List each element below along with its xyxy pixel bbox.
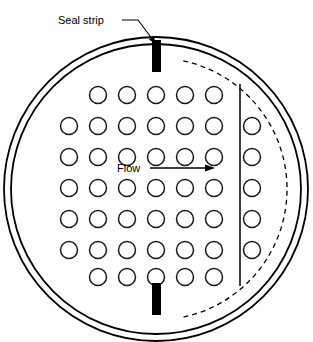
tube	[244, 118, 261, 135]
tube	[148, 118, 165, 135]
tube	[177, 269, 194, 286]
tube	[119, 87, 136, 104]
tube	[61, 149, 78, 166]
top-seal-strip	[152, 40, 161, 72]
tube	[148, 211, 165, 228]
tube	[119, 118, 136, 135]
tube	[177, 242, 194, 259]
tube	[90, 242, 107, 259]
tube	[148, 149, 165, 166]
tube	[206, 242, 223, 259]
tube	[206, 149, 223, 166]
tube	[119, 211, 136, 228]
tube	[119, 180, 136, 197]
tube	[244, 180, 261, 197]
tube	[177, 211, 194, 228]
tube	[244, 149, 261, 166]
tube	[177, 149, 194, 166]
tube	[61, 211, 78, 228]
tube	[90, 180, 107, 197]
tube	[61, 180, 78, 197]
tube	[90, 211, 107, 228]
tube	[90, 87, 107, 104]
tube	[244, 211, 261, 228]
tube	[119, 242, 136, 259]
tube	[61, 118, 78, 135]
tube	[206, 211, 223, 228]
heat-exchanger-diagram: Seal strip Flow	[0, 0, 313, 342]
diagram-canvas: Seal strip Flow	[0, 0, 313, 342]
flow-label: Flow	[117, 162, 140, 174]
outer-tube-limit-arc	[183, 61, 287, 317]
tube	[119, 269, 136, 286]
tube	[90, 269, 107, 286]
tube	[244, 242, 261, 259]
tube	[206, 87, 223, 104]
tube	[148, 269, 165, 286]
tube	[206, 180, 223, 197]
tube	[148, 180, 165, 197]
tube	[90, 149, 107, 166]
tube	[206, 269, 223, 286]
seal-strip-label: Seal strip	[58, 14, 104, 26]
tube	[61, 242, 78, 259]
tube	[90, 118, 107, 135]
tube	[148, 242, 165, 259]
tube	[177, 87, 194, 104]
tube	[177, 180, 194, 197]
tube	[206, 118, 223, 135]
tube	[177, 118, 194, 135]
bottom-seal-strip	[152, 283, 161, 315]
tube-bundle	[61, 87, 261, 286]
tube	[148, 87, 165, 104]
